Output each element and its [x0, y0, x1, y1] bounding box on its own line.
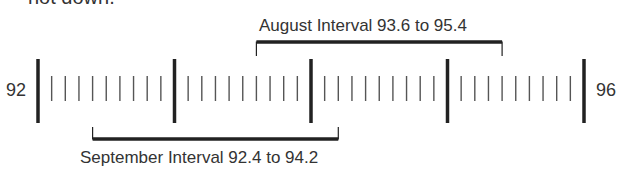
end-label: 96: [596, 80, 616, 101]
tick-marks: [38, 59, 584, 123]
august-interval-label: August Interval 93.6 to 95.4: [259, 16, 467, 36]
start-label: 92: [6, 80, 26, 101]
september-interval-label: September Interval 92.4 to 94.2: [80, 148, 318, 168]
